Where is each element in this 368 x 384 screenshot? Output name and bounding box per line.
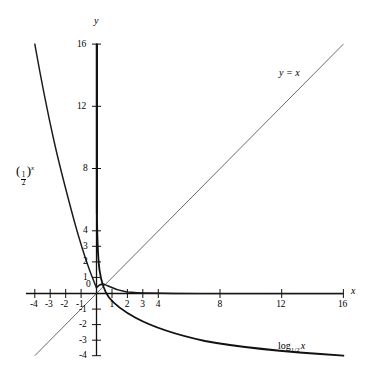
exp-half-open-paren: ( bbox=[16, 163, 20, 178]
exp-half-fraction: 12 bbox=[21, 172, 27, 188]
y-tick-label-4: 4 bbox=[83, 226, 88, 236]
curve-exp-half bbox=[35, 44, 343, 294]
x-tick-label-8: 8 bbox=[217, 300, 222, 310]
x-tick-label--4: -4 bbox=[30, 300, 38, 310]
y-tick-label-12: 12 bbox=[77, 102, 86, 112]
exp-half-numerator: 1 bbox=[21, 172, 27, 179]
y-tick-label--2: -2 bbox=[79, 320, 87, 330]
curve-label-log-half: log1/2x bbox=[278, 341, 305, 354]
x-axis-name: x bbox=[351, 286, 355, 296]
y-tick-label--1: -1 bbox=[79, 305, 87, 315]
y-tick-label--4: -4 bbox=[79, 351, 87, 361]
y-tick-label-3: 3 bbox=[83, 242, 88, 252]
x-tick-label-12: 12 bbox=[276, 300, 285, 310]
exp-half-denominator: 2 bbox=[21, 179, 27, 187]
plot-canvas bbox=[0, 0, 368, 384]
exp-half-exponent: x bbox=[31, 164, 34, 172]
y-tick-label-16: 16 bbox=[77, 40, 86, 50]
x-tick-label-16: 16 bbox=[338, 300, 347, 310]
x-tick-label--3: -3 bbox=[45, 300, 53, 310]
x-tick-label-4: 4 bbox=[156, 300, 161, 310]
x-tick-label-3: 3 bbox=[140, 300, 145, 310]
x-tick-label-1: 1 bbox=[110, 300, 115, 310]
curve-label-exp-half: (12)x bbox=[16, 164, 34, 187]
y-axis-name: y bbox=[94, 16, 98, 26]
y-tick-label--3: -3 bbox=[79, 336, 87, 346]
log-half-argument: x bbox=[301, 340, 305, 351]
curve-label-identity: y = x bbox=[279, 68, 300, 78]
log-half-subscript: 1/2 bbox=[291, 346, 300, 354]
x-tick-label-2: 2 bbox=[125, 300, 130, 310]
y-tick-label-1: 1 bbox=[83, 273, 88, 283]
log-half-base-text: log bbox=[278, 340, 291, 351]
axes-group bbox=[26, 44, 343, 356]
x-tick-label--2: -2 bbox=[61, 300, 69, 310]
y-tick-label-8: 8 bbox=[83, 164, 88, 174]
y-tick-label-2: 2 bbox=[83, 257, 88, 267]
graph-figure: -4 -3 -2 -1 0 1 2 3 4 8 12 16 16 12 8 4 … bbox=[0, 0, 368, 384]
